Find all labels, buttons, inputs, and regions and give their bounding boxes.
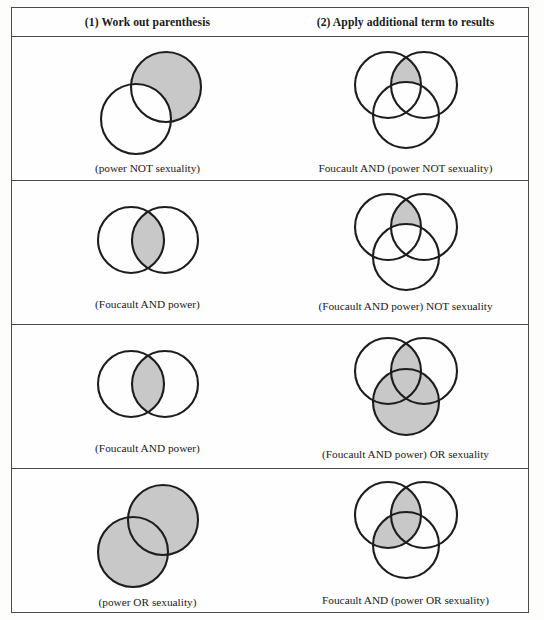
venn-two-circle-foucault-and-power xyxy=(78,187,218,297)
caption-step1-row1: (power NOT sexuality) xyxy=(95,162,200,174)
table-row: (Foucault AND power) xyxy=(12,181,528,325)
caption-step1-row2: (Foucault AND power) xyxy=(95,298,200,310)
cell-step1-row1: (power NOT sexuality) xyxy=(12,37,283,180)
venn-three-circle-foucault-and-power-or-sexuality xyxy=(336,475,476,593)
caption-step2-row3: (Foucault AND power) OR sexuality xyxy=(322,448,489,460)
table-row: (power OR sexuality) xyxy=(12,469,528,612)
table-row: (Foucault AND power) xyxy=(12,325,528,469)
caption-step2-row1: Foucault AND (power NOT sexuality) xyxy=(318,162,492,174)
table-row: (power NOT sexuality) xyxy=(12,37,528,181)
page-sheet: (1) Work out parenthesis (2) Apply addit… xyxy=(0,0,544,620)
table-header-row: (1) Work out parenthesis (2) Apply addit… xyxy=(12,8,528,37)
shaded-group xyxy=(336,43,476,161)
column-header-step2: (2) Apply additional term to results xyxy=(283,16,528,29)
cell-step2-row1: Foucault AND (power NOT sexuality) xyxy=(283,37,528,180)
cell-step1-row2: (Foucault AND power) xyxy=(12,181,283,324)
shaded-region-foucault-and-power-not-sexuality xyxy=(336,43,476,161)
caption-step1-row3: (Foucault AND power) xyxy=(95,442,200,454)
venn-two-circle-foucault-and-power-2 xyxy=(78,331,218,441)
venn-three-circle-foucault-and-power-not-sexuality xyxy=(336,43,476,161)
caption-step1-row4: (power OR sexuality) xyxy=(99,596,197,608)
cell-step2-row2: (Foucault AND power) NOT sexuality xyxy=(283,181,528,324)
table-body: (power NOT sexuality) xyxy=(12,37,528,612)
venn-three-circle-foucault-and-power-not-sexuality-2 xyxy=(336,187,476,299)
venn-three-circle-foucault-and-power-or-sexuality xyxy=(336,331,476,447)
cell-step2-row3: (Foucault AND power) OR sexuality xyxy=(283,325,528,468)
caption-step2-row2: (Foucault AND power) NOT sexuality xyxy=(318,300,492,312)
cell-step1-row4: (power OR sexuality) xyxy=(12,469,283,612)
caption-step2-row4: Foucault AND (power OR sexuality) xyxy=(322,594,489,606)
cell-step2-row4: Foucault AND (power OR sexuality) xyxy=(283,469,528,612)
shaded-region-foucault-and-power-not-sexuality xyxy=(336,187,476,299)
cell-step1-row3: (Foucault AND power) xyxy=(12,325,283,468)
venn-table: (1) Work out parenthesis (2) Apply addit… xyxy=(11,7,529,613)
column-header-step1: (1) Work out parenthesis xyxy=(12,16,283,29)
venn-two-circle-power-or-sexuality xyxy=(78,475,218,595)
venn-two-circle-offset-power-not-sexuality xyxy=(78,43,218,161)
